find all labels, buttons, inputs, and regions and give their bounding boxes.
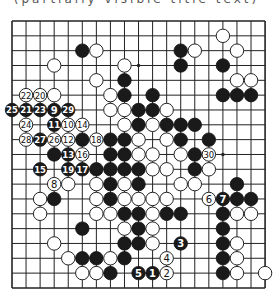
move-number: 26 — [49, 135, 60, 145]
white-stone: 2 — [160, 266, 173, 279]
black-stone-icon — [216, 252, 229, 265]
white-stone-icon — [33, 207, 46, 220]
black-stone-icon — [216, 88, 229, 101]
black-stone-icon — [132, 222, 145, 235]
white-stone-icon — [216, 29, 229, 42]
white-stone — [202, 163, 215, 176]
black-stone-icon — [174, 207, 187, 220]
black-stone-icon — [160, 118, 173, 131]
move-number: 27 — [34, 135, 46, 145]
white-stone — [132, 148, 145, 161]
white-stone — [230, 207, 243, 220]
white-stone — [62, 252, 75, 265]
move-number: 22 — [21, 91, 32, 101]
black-stone-icon — [160, 207, 173, 220]
black-stone — [230, 192, 243, 205]
move-number: 9 — [51, 105, 58, 116]
move-number: 18 — [91, 135, 102, 145]
move-number: 21 — [20, 105, 32, 115]
black-stone — [132, 177, 145, 190]
white-stone — [118, 59, 131, 72]
black-stone — [132, 103, 145, 116]
white-stone — [146, 192, 159, 205]
white-stone — [188, 44, 201, 57]
black-stone — [104, 133, 117, 146]
white-stone — [47, 88, 60, 101]
move-number: 1 — [149, 268, 156, 279]
black-stone-icon — [76, 252, 89, 265]
white-stone — [230, 266, 243, 279]
white-stone — [104, 252, 117, 265]
black-stone-icon — [174, 133, 187, 146]
white-stone — [174, 148, 187, 161]
black-stone — [244, 192, 257, 205]
white-stone-icon — [90, 207, 103, 220]
black-stone-icon — [104, 133, 117, 146]
move-number: 25 — [6, 105, 18, 115]
black-stone — [216, 266, 229, 279]
white-stone-icon — [202, 163, 215, 176]
move-number: 23 — [34, 105, 46, 115]
black-stone — [118, 148, 131, 161]
white-stone-icon — [146, 192, 159, 205]
white-stone — [90, 74, 103, 87]
white-stone-icon — [146, 163, 159, 176]
black-stone-icon — [132, 237, 145, 250]
black-stone — [118, 74, 131, 87]
black-stone — [216, 207, 229, 220]
black-stone-icon — [118, 88, 131, 101]
black-stone-icon — [216, 266, 229, 279]
move-number: 24 — [21, 120, 32, 130]
white-stone: 30 — [202, 148, 215, 161]
white-stone-icon — [244, 207, 257, 220]
white-stone — [146, 163, 159, 176]
black-stone — [118, 133, 131, 146]
white-stone-icon — [90, 177, 103, 190]
white-stone-icon — [90, 74, 103, 87]
black-stone — [146, 88, 159, 101]
black-stone: 23 — [33, 103, 46, 116]
move-number: 12 — [63, 135, 74, 145]
move-number: 16 — [77, 150, 88, 160]
move-number: 11 — [48, 120, 60, 130]
move-number: 13 — [62, 150, 74, 160]
black-stone-icon — [118, 148, 131, 161]
black-stone-icon — [188, 163, 201, 176]
white-stone-icon — [62, 177, 75, 190]
white-stone-icon — [47, 88, 60, 101]
white-stone-icon — [47, 237, 60, 250]
white-stone — [230, 237, 243, 250]
white-stone — [244, 74, 257, 87]
white-stone — [47, 59, 60, 72]
white-stone-icon — [160, 133, 173, 146]
black-stone: 27 — [33, 133, 46, 146]
white-stone-icon — [90, 192, 103, 205]
black-stone — [104, 192, 117, 205]
black-stone — [104, 177, 117, 190]
white-stone — [90, 192, 103, 205]
black-stone: 11 — [47, 118, 60, 131]
go-board: 2220252123929241110142827261218131630151… — [0, 0, 273, 295]
white-stone-icon — [244, 74, 257, 87]
black-stone — [174, 207, 187, 220]
black-stone-icon — [132, 207, 145, 220]
white-stone — [104, 103, 117, 116]
white-stone-icon — [188, 177, 201, 190]
white-stone-icon — [174, 148, 187, 161]
move-number: 2 — [163, 268, 169, 279]
black-stone-icon — [76, 222, 89, 235]
black-stone — [230, 88, 243, 101]
move-number: 19 — [62, 165, 74, 175]
white-stone — [33, 207, 46, 220]
white-stone — [118, 192, 131, 205]
black-stone — [132, 207, 145, 220]
white-stone-icon — [90, 266, 103, 279]
black-stone — [174, 44, 187, 57]
white-stone — [118, 222, 131, 235]
white-stone-icon — [104, 207, 117, 220]
white-stone-icon — [230, 207, 243, 220]
black-stone-icon — [118, 133, 131, 146]
white-stone: 10 — [62, 118, 75, 131]
black-stone-icon — [174, 59, 187, 72]
white-stone-icon — [118, 118, 131, 131]
